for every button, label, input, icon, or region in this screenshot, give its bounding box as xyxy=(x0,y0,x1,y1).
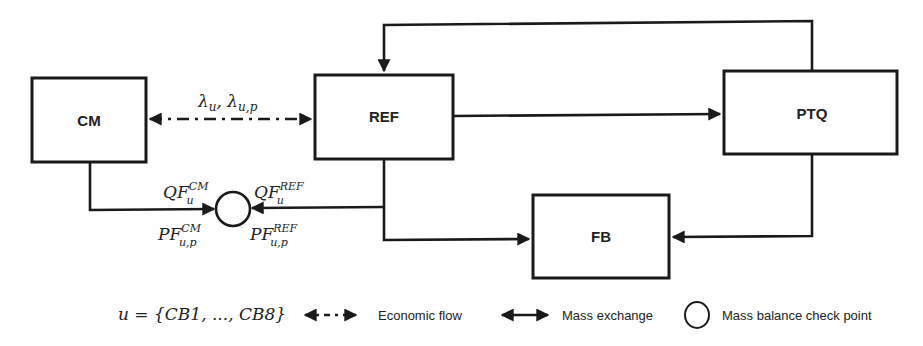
pf-cm-label: PFCMu,p xyxy=(157,222,202,249)
flow-diagram: CM REF PTQ FB λu, λu,p QFCMu QFREFu PFCM… xyxy=(0,0,923,346)
qf-cm-label: QFCMu xyxy=(163,180,209,207)
mass-flow-ref-ptq xyxy=(453,114,720,116)
legend-set-definition: u = {CB1, ..., CB8} xyxy=(118,304,286,324)
qf-ref-label: QFREFu xyxy=(254,180,304,207)
node-fb-label: FB xyxy=(591,228,611,245)
node-ref-label: REF xyxy=(369,108,399,125)
mass-flow-ref-fb xyxy=(384,159,529,240)
node-cm-label: CM xyxy=(77,112,100,129)
legend-check-point-icon xyxy=(685,302,709,328)
node-ptq-label: PTQ xyxy=(797,105,828,122)
legend: u = {CB1, ..., CB8} Economic flow Mass e… xyxy=(118,302,872,328)
node-cm: CM xyxy=(32,78,146,162)
legend-mass-exchange-label: Mass exchange xyxy=(562,308,653,323)
lambda-label: λu, λu,p xyxy=(197,91,258,114)
mass-flow-ptq-ref-feedback xyxy=(384,21,812,71)
node-fb: FB xyxy=(533,195,669,278)
mass-flow-ref-checkpoint xyxy=(252,207,384,208)
mass-balance-check-point xyxy=(216,192,250,226)
node-ptq: PTQ xyxy=(724,71,897,154)
pf-ref-label: PFREFu,p xyxy=(249,222,298,249)
legend-economic-flow-label: Economic flow xyxy=(378,308,462,323)
legend-mass-balance-label: Mass balance check point xyxy=(722,308,872,323)
node-ref: REF xyxy=(315,75,453,159)
mass-flow-ptq-fb xyxy=(673,154,812,237)
